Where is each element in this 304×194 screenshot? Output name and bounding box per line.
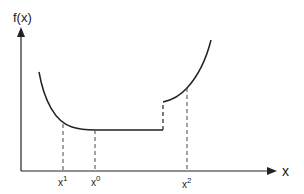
tick-label-x0: x0 xyxy=(91,174,101,188)
tick-label-x1: x1 xyxy=(58,174,68,188)
y-axis-arrow-icon xyxy=(17,27,25,37)
y-axis-label: f(x) xyxy=(13,10,32,25)
x-axis-label: x xyxy=(282,163,289,179)
tick-label-x2: x2 xyxy=(182,176,192,190)
function-curve-right xyxy=(163,40,211,102)
diagram-canvas: f(x) x x1 x0 x2 xyxy=(0,0,304,194)
function-curve-left xyxy=(39,72,163,130)
x-axis-arrow-icon xyxy=(267,167,277,175)
